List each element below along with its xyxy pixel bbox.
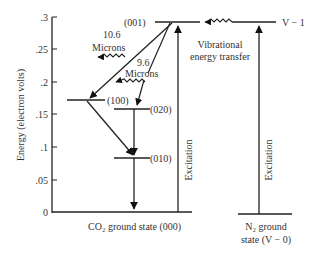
tick-label: .3 [41,12,49,23]
transition-001-020-lower [137,80,144,105]
energy-level-diagram: .3 .25 .2 .15 .1 .05 0 Energy (electron … [0,0,321,254]
y-axis-label: Energy (electron volts) [15,69,27,161]
tick-label: .05 [36,175,49,186]
level-001-label: (001) [124,17,146,29]
level-020-label: (020) [150,104,172,116]
label-microns: Microns [125,68,158,79]
n2-ground-label-1: N₂ ground [245,221,287,232]
emission-10-6-microns: 10.6 Microns [92,29,125,57]
level-010-label: (010) [150,153,172,165]
n2-excitation-label: Excitation [263,139,274,180]
label-9-6: 9.6 [137,57,150,68]
level-100-label: (100) [107,95,129,107]
n2-ground-label-2: state (V − 0) [241,234,291,246]
vibrational-transfer-arrow [205,19,232,22]
transition-001-020-upper [148,23,170,73]
tick-label: .25 [36,44,49,55]
tick-label: .15 [36,109,49,120]
tick-label: .2 [41,77,49,88]
transfer-label-1: Vibrational [198,39,243,50]
n2-level-v1-label: V − 1 [282,17,305,28]
co2-ground-label: CO₂ ground state (000) [88,221,181,233]
tick-label: .1 [41,142,49,153]
label-microns: Microns [92,42,125,53]
label-10-6: 10.6 [103,29,121,40]
tick-label: 0 [43,207,48,218]
y-axis: .3 .25 .2 .15 .1 .05 0 Energy (electron … [15,12,57,218]
co2-excitation-label: Excitation [183,139,194,180]
emission-9-6-microns: 9.6 Microns [116,57,158,82]
transfer-label-2: energy transfer [190,51,251,62]
